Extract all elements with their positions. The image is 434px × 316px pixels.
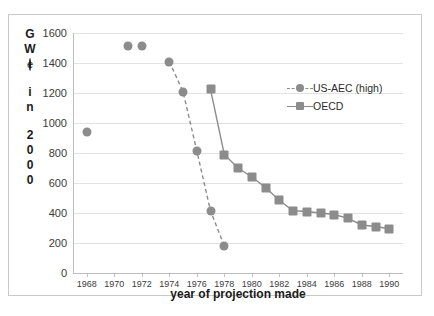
y-tick-label: 800 — [27, 147, 67, 159]
x-tick-mark-minor — [334, 273, 335, 276]
x-tick-mark-minor — [389, 273, 390, 276]
data-point — [344, 214, 353, 223]
data-point — [234, 164, 243, 173]
data-point — [247, 173, 256, 182]
grid-line — [73, 273, 403, 274]
data-point — [385, 224, 394, 233]
data-point — [124, 41, 133, 50]
plot-area: 16001400120010008006004002000 1968197019… — [73, 33, 403, 273]
grid-line — [73, 153, 403, 154]
y-axis-title-char: 0 — [27, 158, 34, 173]
data-point — [82, 128, 91, 137]
legend-item-us-aec[interactable]: US-AEC (high) — [287, 79, 407, 97]
grid-line — [73, 183, 403, 184]
grid-line — [73, 243, 403, 244]
x-tick-mark-minor — [197, 273, 198, 276]
x-tick-mark-minor — [169, 273, 170, 276]
y-tick-label: 0 — [27, 267, 67, 279]
data-point — [206, 85, 215, 94]
x-axis-title: year of projection made — [73, 287, 403, 301]
x-tick-mark-minor — [224, 273, 225, 276]
y-tick-label: 1400 — [27, 57, 67, 69]
x-tick-mark-minor — [307, 273, 308, 276]
data-point — [179, 87, 188, 96]
grid-line — [73, 63, 403, 64]
data-point — [330, 210, 339, 219]
data-point — [357, 221, 366, 230]
data-point — [316, 209, 325, 218]
x-tick-mark-minor — [114, 273, 115, 276]
data-point — [220, 150, 229, 159]
data-point — [137, 41, 146, 50]
data-point — [192, 146, 201, 155]
x-tick-mark-minor — [279, 273, 280, 276]
legend-marker-circle-icon — [287, 83, 313, 93]
grid-line — [73, 123, 403, 124]
chart-figure: G W e i n 2 0 0 0 1600140012001000800600… — [8, 14, 422, 296]
x-tick-mark-minor — [362, 273, 363, 276]
y-tick-label: 400 — [27, 207, 67, 219]
y-axis-title-char: W — [24, 42, 35, 57]
legend-label: OECD — [313, 100, 343, 112]
legend-label: US-AEC (high) — [313, 82, 382, 94]
legend-marker-square-icon — [287, 101, 313, 111]
y-axis-title-char: 2 — [27, 128, 34, 143]
data-point — [275, 196, 284, 205]
chart-legend: US-AEC (high) OECD — [287, 79, 407, 115]
y-tick-label: 600 — [27, 177, 67, 189]
y-axis-title-char: n — [26, 100, 33, 115]
y-tick-label: 1200 — [27, 87, 67, 99]
data-point — [220, 242, 229, 251]
grid-lines — [73, 33, 403, 273]
y-axis-line — [73, 33, 74, 273]
x-tick-mark-minor — [252, 273, 253, 276]
y-tick-label: 1600 — [27, 27, 67, 39]
legend-item-oecd[interactable]: OECD — [287, 97, 407, 115]
data-point — [165, 57, 174, 66]
data-point — [302, 207, 311, 216]
grid-line — [73, 213, 403, 214]
data-point — [289, 206, 298, 215]
x-tick-mark-minor — [87, 273, 88, 276]
data-point — [206, 206, 215, 215]
y-tick-label: 1000 — [27, 117, 67, 129]
data-point — [371, 222, 380, 231]
x-tick-mark-minor — [142, 273, 143, 276]
grid-line — [73, 33, 403, 34]
data-point — [261, 183, 270, 192]
y-tick-label: 200 — [27, 237, 67, 249]
